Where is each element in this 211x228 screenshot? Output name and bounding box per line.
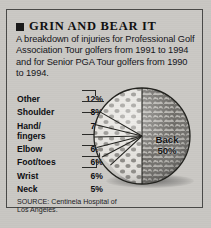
infographic-background: GRIN AND BEAR IT A breakdown of injuries… — [0, 0, 211, 228]
pie-slice-label-back-pct: 50% — [142, 145, 192, 156]
list-item: Hand/ fingers 7% — [17, 121, 103, 141]
subtitle-text: A breakdown of injuries for Professional… — [16, 34, 196, 80]
list-item: Wrist 6% — [17, 171, 103, 181]
black-square-bullet-icon — [16, 23, 24, 31]
list-item: Other 12% — [17, 94, 103, 104]
legend-label-other: Other — [17, 94, 40, 104]
pie-slice-label-back-name: Back — [142, 134, 192, 145]
pie-chart: Back 50% — [92, 86, 204, 198]
pie-slice-label-back: Back 50% — [142, 134, 192, 156]
legend-label-shoulder: Shoulder — [17, 107, 54, 117]
source-note: SOURCE: Centinela Hospital of Los Angele… — [17, 198, 127, 215]
page-title: GRIN AND BEAR IT — [29, 19, 157, 34]
legend-label-neck: Neck — [17, 184, 38, 194]
list-item: Foot/toes 6% — [17, 157, 103, 167]
legend-label-foot-toes: Foot/toes — [17, 157, 56, 167]
legend-list: Other 12% Shoulder 8% Hand/ fingers 7% E… — [17, 94, 103, 197]
list-item: Neck 5% — [17, 184, 103, 194]
list-item: Elbow 6% — [17, 144, 103, 154]
legend-label-wrist: Wrist — [17, 171, 38, 181]
title-row: GRIN AND BEAR IT — [16, 19, 157, 34]
legend-label-hand-fingers: Hand/ fingers — [17, 121, 46, 141]
list-item: Shoulder 8% — [17, 107, 103, 117]
legend-label-elbow: Elbow — [17, 144, 42, 154]
